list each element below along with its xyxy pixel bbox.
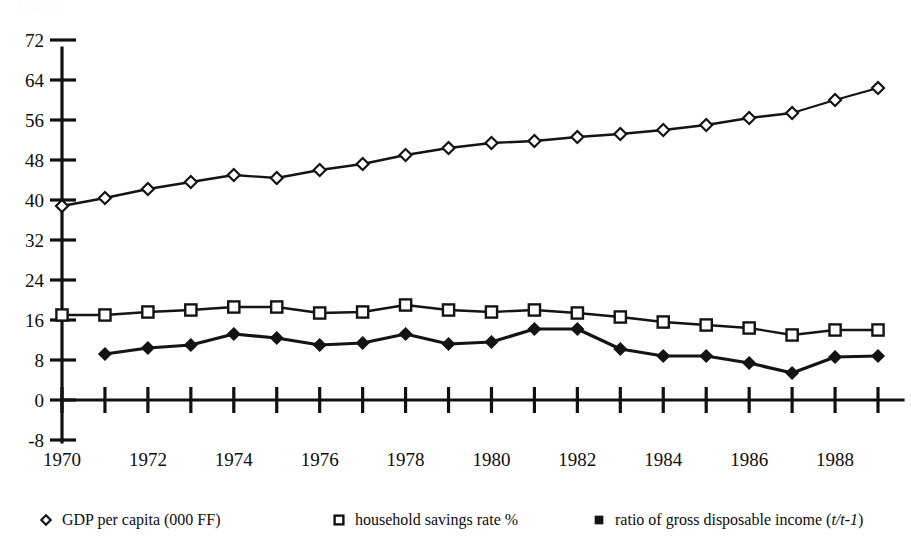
legend-label: household savings rate % bbox=[355, 511, 518, 529]
legend-entry-3: ratio of gross disposable income (t/t-1) bbox=[595, 511, 863, 529]
data-point-marker bbox=[314, 340, 325, 351]
data-point-marker bbox=[357, 306, 368, 317]
series-line bbox=[62, 88, 878, 206]
y-tick-label: 48 bbox=[25, 150, 44, 171]
data-point-marker bbox=[529, 304, 540, 315]
data-point-marker bbox=[99, 309, 110, 320]
data-point-marker bbox=[400, 299, 411, 310]
data-point-marker bbox=[443, 304, 454, 315]
x-axis: 1970197219741976197819801982198419861988 bbox=[43, 387, 903, 470]
data-point-marker bbox=[357, 158, 369, 170]
y-axis-tick-labels: -8081624324048566472 bbox=[25, 30, 45, 451]
x-tick-label: 1976 bbox=[301, 449, 339, 470]
x-tick-label: 1972 bbox=[129, 449, 167, 470]
data-point-marker bbox=[614, 128, 626, 140]
data-point-marker bbox=[443, 339, 454, 350]
x-tick-label: 1974 bbox=[215, 449, 254, 470]
data-point-marker bbox=[400, 329, 411, 340]
legend-label-italic: t/t-1 bbox=[831, 511, 858, 528]
data-point-marker bbox=[743, 112, 755, 124]
data-point-marker bbox=[701, 319, 712, 330]
data-point-marker bbox=[99, 349, 110, 360]
data-point-marker bbox=[271, 301, 282, 312]
data-point-marker bbox=[142, 343, 153, 354]
y-tick-label: 24 bbox=[25, 270, 45, 291]
legend-entry-2: household savings rate % bbox=[335, 511, 518, 529]
data-point-marker bbox=[829, 94, 841, 106]
data-point-marker bbox=[443, 142, 455, 154]
y-tick-label: 64 bbox=[25, 70, 45, 91]
data-point-marker bbox=[572, 307, 583, 318]
data-point-marker bbox=[185, 340, 196, 351]
data-point-marker bbox=[787, 368, 798, 379]
y-tick-label: 56 bbox=[25, 110, 44, 131]
x-tick-label: 1988 bbox=[816, 449, 854, 470]
chart-legend: GDP per capita (000 FF)household savings… bbox=[41, 511, 863, 529]
x-tick-label: 1984 bbox=[644, 449, 683, 470]
y-tick-label: 72 bbox=[25, 30, 44, 51]
chart-figure: Figure -8081624324048566472 197019721974… bbox=[0, 0, 911, 558]
data-point-marker bbox=[142, 183, 154, 195]
data-point-marker bbox=[787, 329, 798, 340]
data-point-marker bbox=[185, 304, 196, 315]
y-axis: -8081624324048566472 bbox=[25, 30, 76, 451]
data-point-marker bbox=[528, 135, 540, 147]
data-point-marker bbox=[873, 351, 884, 362]
data-point-marker bbox=[314, 164, 326, 176]
y-tick-label: 32 bbox=[25, 230, 44, 251]
x-axis-tick-labels: 1970197219741976197819801982198419861988 bbox=[43, 449, 854, 470]
data-point-marker bbox=[185, 176, 197, 188]
data-point-marker bbox=[701, 351, 712, 362]
legend-entry-1: GDP per capita (000 FF) bbox=[41, 511, 220, 529]
legend-label: GDP per capita (000 FF) bbox=[62, 511, 221, 529]
data-point-marker bbox=[572, 324, 583, 335]
data-point-marker bbox=[56, 200, 68, 212]
line-chart: -8081624324048566472 1970197219741976197… bbox=[0, 0, 911, 558]
data-point-marker bbox=[529, 324, 540, 335]
data-point-marker bbox=[228, 301, 239, 312]
data-point-marker bbox=[99, 192, 111, 204]
series-layer bbox=[56, 82, 884, 379]
data-point-marker bbox=[744, 322, 755, 333]
x-tick-label: 1978 bbox=[387, 449, 425, 470]
x-tick-label: 1970 bbox=[43, 449, 81, 470]
data-point-marker bbox=[829, 324, 840, 335]
data-point-marker bbox=[658, 316, 669, 327]
data-point-marker bbox=[228, 329, 239, 340]
data-point-marker bbox=[595, 516, 602, 523]
data-point-marker bbox=[830, 352, 841, 363]
data-point-marker bbox=[41, 515, 50, 524]
y-tick-label: 0 bbox=[35, 390, 45, 411]
data-point-marker bbox=[271, 333, 282, 344]
series-1 bbox=[56, 82, 884, 212]
legend-label: ratio of gross disposable income (t/t-1) bbox=[615, 511, 863, 529]
data-point-marker bbox=[228, 169, 240, 181]
data-point-marker bbox=[744, 358, 755, 369]
data-point-marker bbox=[400, 149, 412, 161]
data-point-marker bbox=[357, 338, 368, 349]
series-2 bbox=[56, 299, 883, 340]
data-point-marker bbox=[485, 137, 497, 149]
data-point-marker bbox=[56, 309, 67, 320]
y-tick-label: -8 bbox=[28, 430, 44, 451]
data-point-marker bbox=[271, 172, 283, 184]
y-tick-label: 8 bbox=[35, 350, 45, 371]
data-point-marker bbox=[658, 351, 669, 362]
data-point-marker bbox=[615, 344, 626, 355]
data-point-marker bbox=[314, 307, 325, 318]
data-point-marker bbox=[335, 516, 344, 525]
x-tick-label: 1980 bbox=[472, 449, 510, 470]
y-tick-label: 40 bbox=[25, 190, 44, 211]
data-point-marker bbox=[571, 131, 583, 143]
data-point-marker bbox=[786, 107, 798, 119]
y-tick-label: 16 bbox=[25, 310, 44, 331]
data-point-marker bbox=[872, 324, 883, 335]
data-point-marker bbox=[142, 306, 153, 317]
data-point-marker bbox=[872, 82, 884, 94]
x-tick-label: 1982 bbox=[558, 449, 596, 470]
data-point-marker bbox=[486, 337, 497, 348]
data-point-marker bbox=[486, 306, 497, 317]
data-point-marker bbox=[700, 119, 712, 131]
x-tick-label: 1986 bbox=[730, 449, 768, 470]
data-point-marker bbox=[615, 311, 626, 322]
